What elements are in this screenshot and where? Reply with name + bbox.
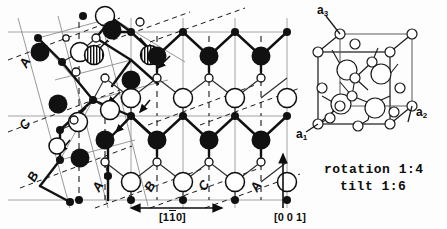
unit-cell-atom-small: [313, 29, 417, 131]
direction-110-bar: 1: [169, 210, 176, 223]
axis-a3-letter: a: [317, 3, 324, 17]
note-rotation: rotation 1:4: [324, 163, 424, 176]
axis-a2-subscript: 2: [423, 111, 427, 120]
axis-label-a2: a2: [416, 106, 427, 120]
axis-label-a1: a1: [296, 128, 307, 142]
axis-a1-subscript: 1: [303, 133, 307, 142]
direction-label-110: [110]: [159, 212, 186, 223]
direction-110-suffix: 0]: [176, 211, 186, 223]
direction-label-001: [0 0 1]: [274, 212, 306, 223]
crystal-structure-figure: A C B A B C A [110] [0 0 1] a3 a2 a1 rot…: [0, 0, 447, 229]
direction-110-prefix: [1: [159, 211, 169, 223]
atom-small-filled: [34, 12, 291, 206]
note-tilt: tilt 1:6: [340, 180, 406, 193]
axis-a1-letter: a: [296, 127, 303, 141]
axis-label-a3: a3: [317, 4, 328, 18]
axis-a3-subscript: 3: [324, 9, 328, 18]
figure-canvas: [0, 0, 447, 229]
axis-a2-letter: a: [416, 105, 423, 119]
